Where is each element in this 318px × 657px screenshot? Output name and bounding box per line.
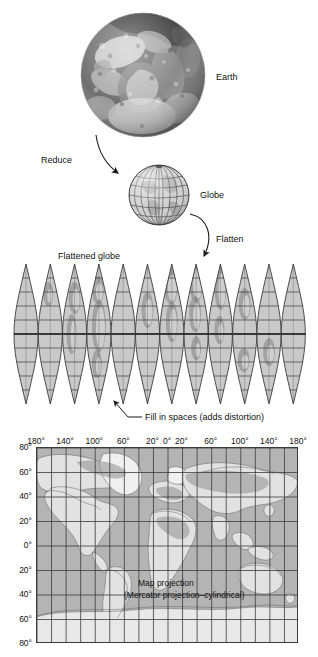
- longitude-tick: 20°: [175, 436, 188, 446]
- fill-in-spaces-leader: [100, 395, 144, 421]
- label-flatten: Flatten: [216, 234, 244, 244]
- longitude-tick: 0°: [163, 436, 171, 446]
- latitude-tick: 60°: [8, 614, 32, 624]
- longitude-tick: 140°: [56, 436, 74, 446]
- latitude-tick: 20°: [8, 565, 32, 575]
- label-reduce: Reduce: [41, 155, 72, 165]
- gore: [183, 262, 209, 404]
- latitude-tick: 0°: [8, 540, 32, 550]
- earth-photo: [80, 12, 206, 138]
- map-projection-figure: Earth Reduce: [0, 0, 318, 657]
- label-flattened-globe: Flattened globe: [58, 251, 120, 261]
- label-earth: Earth: [216, 72, 238, 82]
- map-frame: [36, 447, 298, 643]
- longitude-tick: 60°: [117, 436, 130, 446]
- latitude-tick: 60°: [8, 467, 32, 477]
- label-map-projection: Map projection: [138, 578, 194, 588]
- label-globe: Globe: [200, 190, 224, 200]
- longitude-tick: 20°: [146, 436, 159, 446]
- wireframe-globe: [123, 160, 195, 228]
- longitude-tick: 140°: [260, 436, 278, 446]
- map-canvas: [37, 448, 298, 643]
- longitude-tick: 60°: [204, 436, 217, 446]
- gore-strips: [14, 264, 306, 404]
- globe-graticule: [123, 160, 195, 228]
- earth-globe-image: [80, 12, 206, 138]
- latitude-tick: 20°: [8, 516, 32, 526]
- latitude-tick: 80°: [8, 442, 32, 452]
- latitude-tick: 40°: [8, 589, 32, 599]
- latitude-tick: 40°: [8, 491, 32, 501]
- label-fill-in-spaces: Fill in spaces (adds distortion): [145, 412, 264, 422]
- longitude-tick: 100°: [231, 436, 249, 446]
- flattened-globe-gores: [14, 264, 306, 404]
- mercator-map: [36, 447, 298, 643]
- label-map-projection-sub: (Mercator projection–cylindrical): [124, 590, 244, 600]
- latitude-tick: 80°: [8, 638, 32, 648]
- longitude-tick: 100°: [85, 436, 103, 446]
- longitude-tick: 180°: [289, 436, 307, 446]
